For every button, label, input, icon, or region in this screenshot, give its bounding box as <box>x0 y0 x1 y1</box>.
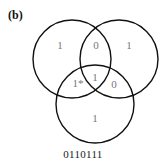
bitstring-caption: 0110111 <box>0 149 166 160</box>
region-ac-only: 1* <box>73 77 84 89</box>
circle-b <box>80 20 158 98</box>
region-b-only: 1 <box>126 39 132 51</box>
region-a-only: 1 <box>57 39 63 51</box>
region-bc-only: 0 <box>111 78 117 90</box>
region-abc: 1 <box>92 71 98 83</box>
venn-diagram-figure: (b) 1 0 1 1* 1 0 1 0110111 <box>0 0 166 164</box>
region-ab-only: 0 <box>93 39 99 51</box>
venn-diagram: 1 0 1 1* 1 0 1 <box>0 0 166 164</box>
region-c-only: 1 <box>92 112 98 124</box>
